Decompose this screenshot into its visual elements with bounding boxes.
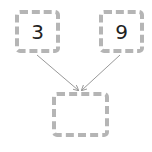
arrow-right <box>82 55 120 90</box>
answer-box[interactable] <box>52 92 109 137</box>
top-left-box: 3 <box>15 10 60 53</box>
arrow-left <box>37 55 78 90</box>
top-right-value: 9 <box>115 20 128 44</box>
top-left-value: 3 <box>31 20 44 44</box>
top-right-box: 9 <box>99 10 144 53</box>
